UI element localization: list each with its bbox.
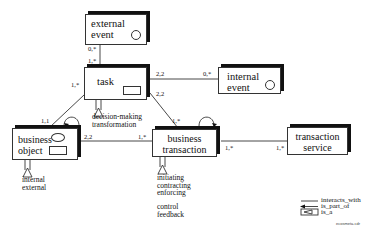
cardinality-label: 1,*	[172, 117, 180, 124]
cardinality-label: 1,*	[225, 144, 233, 151]
cardinality-label: 0,*	[203, 70, 211, 77]
circle-icon	[265, 80, 275, 90]
node-label: internal event	[227, 71, 259, 93]
cardinality-label: 2,2	[84, 133, 92, 140]
node-label: transaction service	[288, 131, 347, 153]
rect-icon	[49, 146, 67, 155]
ellipse-icon	[51, 133, 65, 142]
node-business-transaction[interactable]: business transaction	[152, 129, 217, 157]
cardinality-label: 1,*	[88, 57, 96, 64]
self-loop-business-transaction	[199, 117, 214, 127]
node-label: external event	[91, 18, 125, 40]
specialization-note: control feedback	[157, 203, 184, 218]
cardinality-label: 1,*	[138, 133, 146, 140]
specialization-note: initiating contracting enforcing	[157, 174, 191, 197]
node-label: business object	[18, 134, 52, 156]
cardinality-label: 1,*	[71, 81, 79, 88]
legend-label-is-a: is_a	[321, 209, 332, 216]
cardinality-label: 0,*	[88, 45, 96, 52]
node-transaction-service[interactable]: transaction service	[287, 127, 348, 155]
node-internal-event[interactable]: internal event	[218, 67, 281, 94]
cardinality-label: 1,1	[41, 117, 49, 124]
node-business-object[interactable]: business object	[12, 128, 78, 160]
node-label: task	[97, 76, 114, 87]
rect-icon	[123, 86, 141, 95]
cardinality-label: 1,*	[276, 144, 284, 151]
node-label: business transaction	[153, 133, 216, 155]
file-caption: ecosmeta.cdr	[336, 222, 360, 226]
circle-icon	[131, 30, 141, 40]
specialization-note: internal external	[22, 176, 46, 191]
cardinality-label: 2,2	[156, 70, 164, 77]
node-task[interactable]: task	[84, 67, 147, 100]
specialization-note: decision-making transformation	[92, 113, 142, 128]
cardinality-label: 2,2	[156, 90, 164, 97]
node-external-event[interactable]: external event	[85, 14, 147, 45]
connector-layer	[0, 0, 370, 234]
legend-triangle-icon	[301, 209, 318, 215]
